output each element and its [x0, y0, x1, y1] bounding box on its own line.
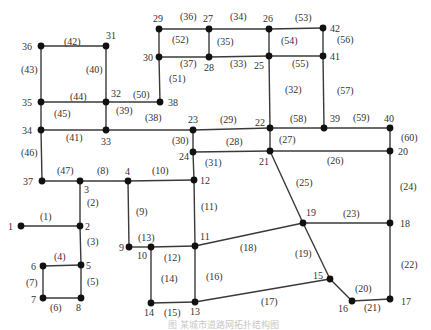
- edge-label: (24): [400, 181, 417, 193]
- edge-24-21: [193, 151, 270, 152]
- figure-caption: 图 某城市道路网拓扑结构图: [168, 319, 279, 330]
- edge-label: (27): [279, 134, 296, 146]
- edge-15-16: [330, 279, 352, 301]
- edge-label: (21): [364, 302, 381, 314]
- edge-label: (59): [353, 112, 370, 124]
- edge-label: (58): [290, 113, 307, 125]
- node-label: 13: [190, 306, 200, 317]
- node-30: [156, 54, 163, 61]
- node-label: 27: [203, 13, 213, 24]
- edge-label: (43): [21, 64, 38, 76]
- node-label: 2: [85, 221, 90, 232]
- edge-6-5: [43, 265, 81, 266]
- node-label: 6: [31, 261, 36, 272]
- node-label: 31: [106, 30, 116, 41]
- edge-label: (11): [201, 201, 217, 213]
- node-label: 37: [23, 176, 33, 187]
- edge-14-13: [151, 302, 195, 303]
- edge-label: (12): [164, 252, 181, 264]
- node-label: 7: [31, 294, 36, 305]
- node-1: [18, 223, 25, 230]
- edge-30-38: [159, 57, 160, 102]
- edge-label: (1): [40, 211, 52, 223]
- edge-label: (39): [116, 105, 133, 117]
- edge-label: (45): [54, 108, 71, 120]
- edge-label: (25): [296, 177, 313, 189]
- node-8: [78, 295, 85, 302]
- node-label: 1: [8, 221, 13, 232]
- node-9: [126, 244, 133, 251]
- node-33: [103, 127, 110, 134]
- node-label: 30: [143, 52, 153, 63]
- edge-label: (33): [230, 58, 247, 70]
- node-label: 15: [313, 270, 323, 281]
- edge-label: (30): [172, 135, 189, 147]
- node-label: 17: [401, 296, 411, 307]
- node-label: 38: [168, 97, 178, 108]
- edge-label: (38): [145, 112, 162, 124]
- node-3: [77, 178, 84, 185]
- edge-label: (7): [26, 277, 38, 289]
- node-19: [300, 220, 307, 227]
- node-label: 9: [119, 242, 124, 253]
- node-13: [192, 299, 199, 306]
- edge-label: (50): [133, 89, 150, 101]
- node-42: [320, 25, 327, 32]
- node-label: 39: [330, 113, 340, 124]
- edge-label: (35): [217, 36, 234, 48]
- edge-label: (32): [285, 84, 302, 96]
- node-11: [192, 243, 199, 250]
- node-label: 24: [179, 151, 189, 162]
- node-37: [39, 178, 46, 185]
- node-34: [38, 127, 45, 134]
- node-21: [267, 148, 274, 155]
- edge-label: (13): [138, 232, 155, 244]
- node-label: 5: [86, 260, 91, 271]
- node-40: [387, 125, 394, 132]
- edge-label: (18): [240, 242, 257, 254]
- node-23: [190, 127, 197, 134]
- node-label: 19: [306, 207, 316, 218]
- node-label: 21: [259, 156, 269, 167]
- node-label: 35: [22, 97, 32, 108]
- node-14: [148, 300, 155, 307]
- node-16: [349, 298, 356, 305]
- edge-label: (31): [205, 157, 222, 169]
- edge-label: (10): [152, 165, 169, 177]
- edge-label: (3): [87, 236, 99, 248]
- node-5: [78, 262, 85, 269]
- edge-label: (29): [220, 114, 237, 126]
- edge-label: (56): [337, 34, 354, 46]
- node-32: [103, 99, 110, 106]
- edge-label: (57): [337, 85, 354, 97]
- node-label: 25: [254, 60, 264, 71]
- edge-28-25: [209, 56, 269, 57]
- node-label: 36: [22, 41, 32, 52]
- edge-label: (19): [295, 248, 312, 260]
- edge-label: (16): [206, 271, 223, 283]
- edge-label: (15): [164, 307, 181, 319]
- edge-label: (22): [401, 259, 418, 271]
- edge-label: (8): [97, 165, 109, 177]
- node-35: [38, 99, 45, 106]
- node-label: 16: [338, 303, 348, 314]
- node-label: 10: [137, 250, 147, 261]
- node-31: [103, 43, 110, 50]
- edge-label: (2): [87, 197, 99, 209]
- edge-26-42: [269, 28, 323, 29]
- edge-16-17: [352, 299, 390, 301]
- edge-label: (44): [70, 91, 87, 103]
- node-label: 18: [400, 218, 410, 229]
- edge-label: (6): [50, 302, 62, 314]
- node-12: [191, 177, 198, 184]
- edge-label: (52): [172, 34, 189, 46]
- node-label: 41: [330, 51, 340, 62]
- node-label: 20: [398, 146, 408, 157]
- edge-2-5: [80, 226, 81, 265]
- edge-label: (46): [21, 147, 38, 159]
- edge-label: (40): [86, 64, 103, 76]
- edge-label: (60): [401, 132, 418, 144]
- node-label: 40: [384, 113, 394, 124]
- edge-label: (34): [230, 11, 247, 23]
- node-label: 29: [153, 13, 163, 24]
